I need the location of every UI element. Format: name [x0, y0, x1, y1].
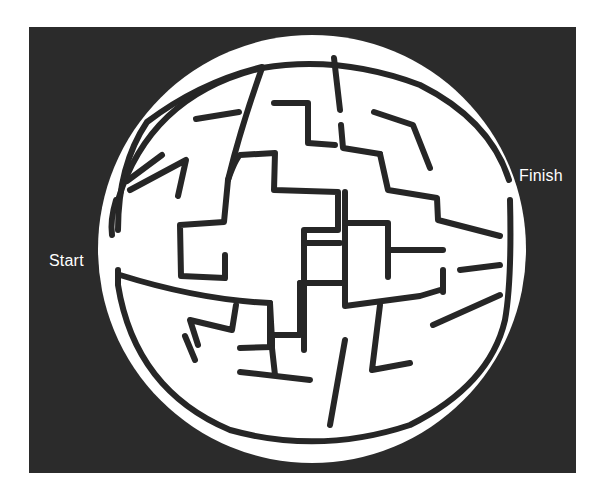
maze-disc	[98, 35, 526, 463]
finish-label: Finish	[519, 167, 563, 185]
maze-wall	[272, 348, 275, 375]
start-label: Start	[49, 252, 84, 270]
maze-graphic	[0, 0, 604, 496]
